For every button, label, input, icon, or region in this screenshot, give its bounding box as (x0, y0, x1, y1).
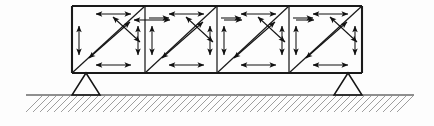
panel-diagonal-2 (145, 6, 217, 73)
diagonal-compression-arrow-3 (258, 17, 285, 42)
panel-diagonal-3 (217, 6, 289, 73)
diagonal-compression-arrow-1 (113, 17, 140, 42)
panel-3-arrows (224, 14, 313, 65)
ground-hatch-lines (26, 95, 414, 112)
diagonal-compression-arrow-4 (330, 17, 357, 42)
truss-diagram-figure (0, 0, 434, 126)
panel-1-arrows (79, 14, 169, 65)
right-support (334, 73, 362, 95)
panel-2-arrows (152, 14, 241, 65)
ground-group (26, 95, 414, 112)
diagonal-compression-arrow-2 (186, 17, 213, 42)
truss-web-members (72, 6, 362, 73)
left-support (72, 73, 100, 95)
supports-group (72, 73, 362, 95)
panel-diagonal-4 (289, 6, 362, 73)
panel-diagonal-1 (72, 6, 145, 73)
